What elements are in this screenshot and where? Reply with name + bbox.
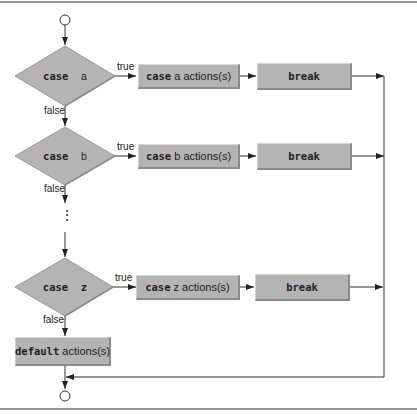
- ellipsis: ⋮: [60, 207, 74, 223]
- decision-label-b: case b: [15, 146, 115, 166]
- false-label-b: false: [44, 183, 65, 194]
- true-label-z: true: [115, 272, 132, 283]
- decision-label-a: case a: [15, 66, 115, 86]
- false-label-z: false: [43, 314, 64, 325]
- break-box-a: break: [257, 63, 352, 90]
- default-action-box: default actions(s): [15, 337, 111, 366]
- break-box-z: break: [255, 274, 350, 301]
- false-label-a: false: [44, 105, 65, 116]
- break-box-b: break: [257, 143, 352, 170]
- final-node-icon: [60, 391, 70, 401]
- action-box-z: case z actions(s): [136, 275, 240, 300]
- true-label-a: true: [117, 61, 134, 72]
- decision-label-z: case z: [15, 277, 115, 297]
- action-box-a: case a actions(s): [138, 64, 240, 89]
- action-box-b: case b actions(s): [138, 144, 240, 169]
- true-label-b: true: [117, 141, 134, 152]
- initial-node-icon: [60, 15, 70, 25]
